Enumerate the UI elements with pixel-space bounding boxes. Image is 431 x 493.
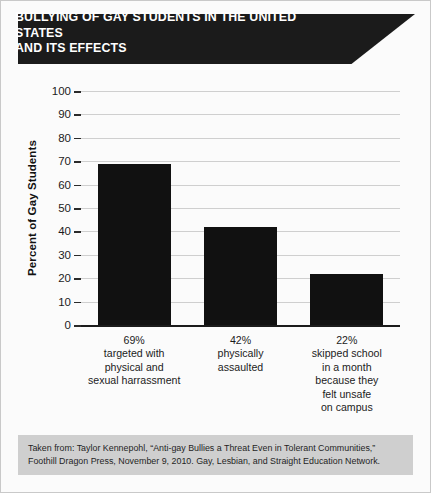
x-axis-category-label: 42%physicallyassaulted <box>181 334 299 374</box>
category-label-line: felt unsafe <box>288 388 406 401</box>
category-label-line: assaulted <box>181 361 299 374</box>
category-label-line: 42% <box>181 334 299 347</box>
bar <box>310 274 383 325</box>
y-axis-tick-label: 80 <box>58 132 71 144</box>
y-axis-tick-label: 30 <box>58 249 71 261</box>
y-axis-tick <box>74 91 81 93</box>
y-axis-tick <box>74 231 81 233</box>
source-line-2: Foothill Dragon Press, November 9, 2010.… <box>28 455 380 468</box>
page-title-line-2: AND ITS EFFECTS <box>15 41 345 57</box>
y-axis-tick-label: 10 <box>58 296 71 308</box>
bar <box>98 164 171 325</box>
y-axis-tick <box>74 302 81 304</box>
gridline <box>81 114 400 115</box>
y-axis-tick-label: 50 <box>58 202 71 214</box>
category-label-line: physical and <box>75 361 193 374</box>
y-axis-tick <box>74 114 81 116</box>
x-axis-category-label: 69%targeted withphysical andsexual harra… <box>75 334 193 388</box>
y-axis-tick <box>74 325 81 327</box>
y-axis-tick-label: 20 <box>58 272 71 284</box>
x-axis-line <box>81 325 400 327</box>
y-axis-tick <box>74 138 81 140</box>
category-label-line: sexual harrassment <box>75 374 193 387</box>
gridline <box>81 138 400 139</box>
category-label-line: skipped school <box>288 347 406 360</box>
plot-area: 0102030405060708090100 <box>81 91 400 325</box>
category-label-line: physically <box>181 347 299 360</box>
x-axis-category-label: 22%skipped schoolin a monthbecause theyf… <box>288 334 406 414</box>
source-citation: Taken from: Taylor Kennepohl, “Anti-gay … <box>18 442 390 467</box>
source-band: Taken from: Taylor Kennepohl, “Anti-gay … <box>18 435 413 475</box>
y-axis-tick <box>74 255 81 257</box>
y-axis-tick-label: 70 <box>58 155 71 167</box>
bar <box>204 227 277 325</box>
category-label-line: on campus <box>288 401 406 414</box>
y-axis-tick <box>74 208 81 210</box>
gridline <box>81 161 400 162</box>
category-label-line: 69% <box>75 334 193 347</box>
y-axis-tick-label: 40 <box>58 225 71 237</box>
category-label-line: targeted with <box>75 347 193 360</box>
page-title-line-1: BULLYING OF GAY STUDENTS IN THE UNITED S… <box>15 10 345 41</box>
y-axis-tick-label: 100 <box>52 85 71 97</box>
y-axis-tick-label: 60 <box>58 179 71 191</box>
page-title: BULLYING OF GAY STUDENTS IN THE UNITED S… <box>15 10 345 57</box>
y-axis-tick-label: 0 <box>65 319 71 331</box>
category-label-line: 22% <box>288 334 406 347</box>
category-label-line: because they <box>288 374 406 387</box>
y-axis-tick <box>74 161 81 163</box>
y-axis-tick <box>74 185 81 187</box>
source-line-1: Taken from: Taylor Kennepohl, “Anti-gay … <box>28 442 380 455</box>
y-axis-title: Percent of Gay Students <box>23 91 41 325</box>
category-label-line: in a month <box>288 361 406 374</box>
chart-card: BULLYING OF GAY STUDENTS IN THE UNITED S… <box>0 0 431 493</box>
gridline <box>81 91 400 92</box>
y-axis-tick-label: 90 <box>58 108 71 120</box>
y-axis-tick <box>74 278 81 280</box>
